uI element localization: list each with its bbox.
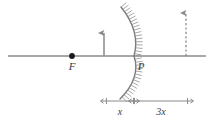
mirror-hatch-stroke — [132, 82, 138, 85]
vertex-point-label: P — [137, 60, 145, 72]
mirror-hatching — [120, 3, 143, 102]
focal-point-dot — [69, 53, 75, 59]
mirror-hatch-stroke — [129, 16, 135, 19]
mirror-hatch-stroke — [129, 88, 135, 92]
mirror-hatch-stroke — [126, 92, 131, 96]
mirror-hatch-stroke — [123, 5, 129, 9]
optics-diagram-canvas: F P x 3x — [0, 0, 215, 122]
mirror-hatch-stroke — [126, 10, 132, 14]
mirror-hatch-stroke — [134, 28, 141, 30]
mirror-hatch-stroke — [134, 77, 141, 79]
mirror-hatch-stroke — [133, 80, 139, 83]
mirror-hatch-stroke — [121, 3, 126, 7]
mirror-hatch-stroke — [128, 13, 134, 17]
mirror-hatch-stroke — [135, 35, 142, 36]
mirror-hatch-stroke — [131, 85, 137, 88]
dimension-label-x: x — [117, 106, 123, 117]
mirror-hatch-stroke — [135, 32, 142, 34]
dimension-label-3x: 3x — [155, 106, 166, 117]
mirror-hatch-stroke — [135, 74, 142, 76]
mirror-hatch-stroke — [125, 8, 131, 12]
mirror-hatch-stroke — [136, 48, 143, 49]
mirror-hatch-stroke — [132, 22, 138, 25]
mirror-hatch-stroke — [124, 95, 129, 100]
mirror-hatch-stroke — [128, 90, 134, 94]
mirror-hatch-stroke — [133, 25, 140, 27]
mirror-hatch-stroke — [135, 51, 142, 52]
mirror-hatch-stroke — [135, 38, 142, 39]
focal-point-label: F — [68, 60, 76, 72]
optics-diagram: F P x 3x — [0, 0, 215, 122]
mirror-hatch-stroke — [131, 19, 137, 22]
